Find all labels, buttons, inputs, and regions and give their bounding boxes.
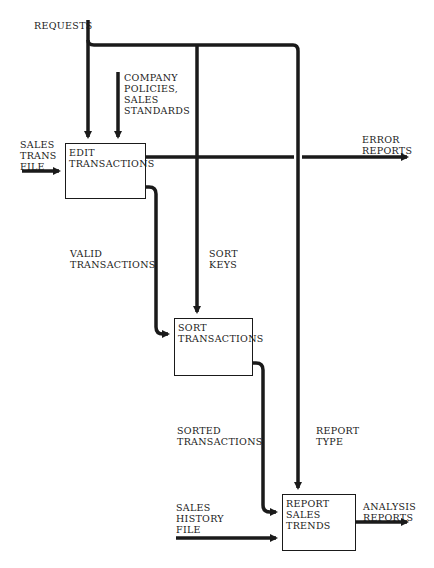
- process-report-sales-trends: REPORT SALES TRENDS: [282, 494, 356, 551]
- label-error-reports: ERROR REPORTS: [362, 134, 412, 156]
- process-label: SORT TRANSACTIONS: [178, 322, 264, 344]
- label-valid-transactions: VALID TRANSACTIONS: [70, 248, 156, 270]
- process-edit-transactions: EDIT TRANSACTIONS: [65, 143, 146, 199]
- process-sort-transactions: SORT TRANSACTIONS: [174, 318, 253, 376]
- label-sort-keys: SORT KEYS: [209, 248, 238, 270]
- flow-connectors: [0, 0, 434, 568]
- label-report-type: REPORT TYPE: [316, 425, 359, 447]
- label-company-policies: COMPANY POLICIES, SALES STANDARDS: [124, 72, 190, 116]
- process-label: REPORT SALES TRENDS: [286, 498, 331, 531]
- process-label: EDIT TRANSACTIONS: [69, 147, 155, 169]
- label-requests: REQUESTS: [34, 20, 93, 31]
- label-sales-history-file: SALES HISTORY FILE: [176, 502, 224, 535]
- label-sales-trans-file: SALES TRANS FILE: [20, 139, 57, 172]
- label-analysis-reports: ANALYSIS REPORTS: [363, 501, 416, 523]
- label-sorted-transactions: SORTED TRANSACTIONS: [177, 425, 263, 447]
